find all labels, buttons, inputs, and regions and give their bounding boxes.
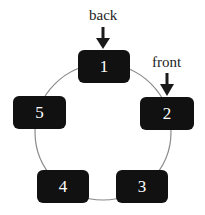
back-arrow-icon — [96, 27, 110, 49]
back-pointer-label: back — [89, 7, 117, 24]
queue-node-2: 2 — [140, 97, 194, 130]
queue-node-1: 1 — [78, 50, 130, 83]
queue-node-3: 3 — [116, 170, 168, 203]
queue-node-5: 5 — [13, 96, 66, 129]
front-arrow-icon — [160, 73, 174, 96]
front-pointer-label: front — [152, 54, 181, 71]
queue-node-4: 4 — [37, 170, 89, 203]
